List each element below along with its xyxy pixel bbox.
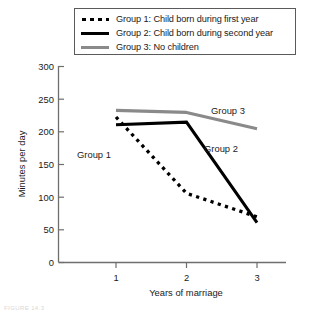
y-tick-label-200: 200: [38, 126, 54, 137]
line-chart-plot: 300 250 200 150 100 50 0 1 2 3 Years of …: [0, 0, 322, 312]
series-line-group-2: [116, 122, 257, 223]
y-tick-label-0: 0: [49, 257, 54, 268]
x-tick-label-2: 2: [184, 272, 189, 283]
x-axis-ticks: [116, 263, 257, 269]
figure-container: Group 1: Child born during first year Gr…: [0, 0, 322, 312]
y-tick-label-250: 250: [38, 94, 54, 105]
group-2-inline-label: Group 2: [204, 143, 238, 154]
x-axis-title: Years of marriage: [149, 287, 223, 298]
y-axis-title: Minutes per day: [16, 130, 27, 197]
group-1-inline-label: Group 1: [77, 149, 111, 160]
y-tick-label-50: 50: [44, 224, 54, 235]
figure-caption: FIGURE 14.3: [4, 305, 44, 311]
group-3-inline-label: Group 3: [211, 105, 245, 116]
y-tick-label-300: 300: [38, 61, 54, 72]
y-tick-label-100: 100: [38, 192, 54, 203]
y-tick-label-150: 150: [38, 159, 54, 170]
x-tick-label-3: 3: [254, 272, 259, 283]
x-tick-label-1: 1: [113, 272, 118, 283]
series-line-group-1: [116, 117, 257, 217]
y-axis-ticks: [59, 67, 65, 263]
